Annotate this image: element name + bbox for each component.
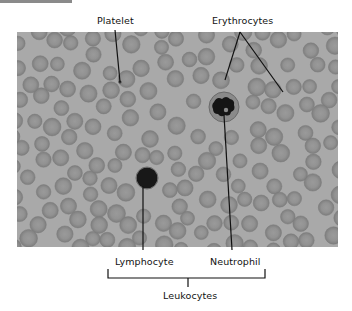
leukocytes-label: Leukocytes xyxy=(163,290,217,301)
platelet-label: Platelet xyxy=(97,15,134,26)
leukocytes-bracket xyxy=(108,269,265,287)
lymphocyte-label: Lymphocyte xyxy=(115,256,174,267)
erythrocytes-label: Erythrocytes xyxy=(212,15,273,26)
neutrophil-label: Neutrophil xyxy=(210,256,261,267)
blood-smear-figure xyxy=(0,0,352,311)
lymphocyte-cell xyxy=(136,167,158,189)
